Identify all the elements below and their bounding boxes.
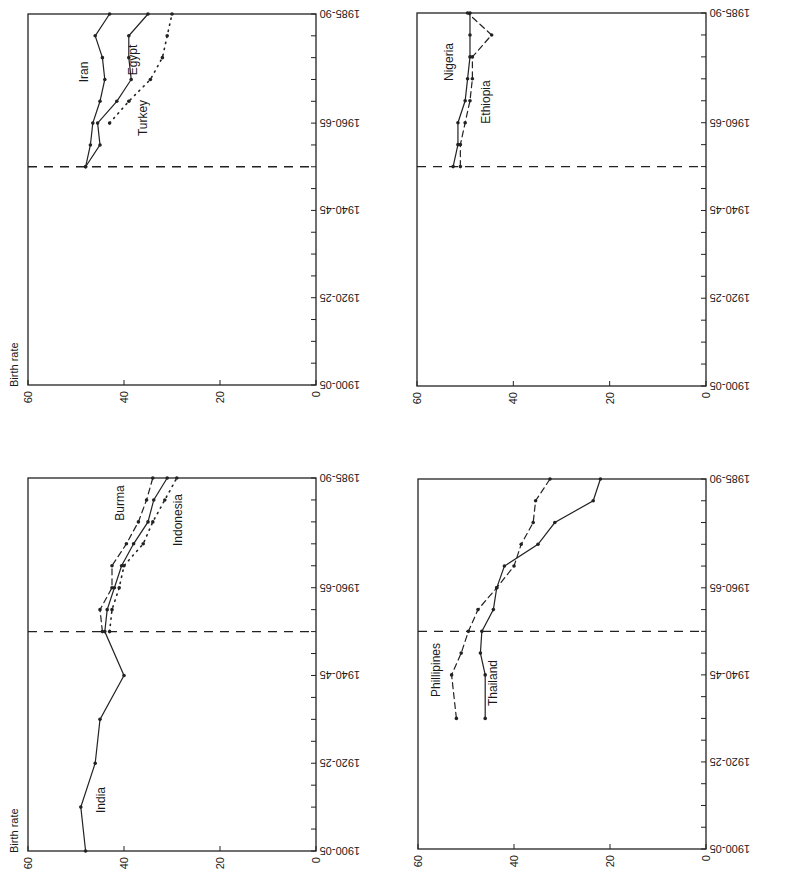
panel-iran-egypt-turkey: 1900-051920-251940-451960-651985-9060402…	[8, 8, 360, 403]
data-point	[468, 33, 472, 37]
data-point	[175, 476, 179, 480]
axis-title-birth-rate: Birth rate	[8, 342, 20, 387]
data-point	[466, 11, 470, 15]
data-point	[503, 564, 507, 568]
time-tick-label: 1960-65	[320, 117, 360, 129]
data-point	[480, 630, 484, 634]
panel-thailand-phillipines: 1900-051920-251940-451960-651985-9060402…	[412, 473, 750, 867]
data-point	[591, 499, 595, 503]
time-tick-label: 1940-45	[320, 669, 360, 681]
time-tick-label: 1940-45	[710, 669, 750, 681]
plot-frame	[418, 479, 706, 849]
data-point	[450, 673, 454, 677]
data-point	[98, 608, 102, 612]
data-point	[531, 521, 535, 525]
plot-frame	[417, 13, 706, 386]
axis-title-birth-rate: Birth rate	[8, 808, 20, 853]
data-point	[492, 608, 496, 612]
time-tick-label: 1920-25	[710, 292, 750, 304]
series-label-iran: Iran	[77, 62, 91, 83]
data-point	[476, 608, 480, 612]
data-point	[151, 520, 155, 524]
data-point	[455, 717, 459, 721]
data-point	[98, 718, 102, 722]
data-point	[165, 34, 169, 38]
time-tick-label: 1960-65	[710, 582, 750, 594]
value-tick-label: 20	[604, 392, 616, 404]
data-point	[536, 542, 540, 546]
data-point	[110, 564, 114, 568]
data-point	[471, 55, 475, 59]
time-tick-label: 1985-90	[710, 473, 750, 485]
value-tick-label: 40	[508, 855, 520, 867]
data-point	[463, 99, 467, 103]
series-label-egypt: Egypt	[126, 44, 140, 75]
data-point	[553, 521, 557, 525]
value-tick-label: 60	[412, 855, 424, 867]
data-point	[91, 121, 95, 125]
data-point	[459, 651, 463, 655]
data-point	[98, 99, 102, 103]
data-point	[98, 143, 102, 147]
value-tick-label: 40	[118, 857, 130, 869]
data-point	[108, 630, 112, 634]
value-tick-label: 20	[214, 391, 226, 403]
data-point	[79, 805, 83, 809]
value-tick-label: 20	[214, 857, 226, 869]
value-tick-label: 0	[700, 855, 712, 861]
data-point	[105, 608, 109, 612]
data-point	[495, 586, 499, 590]
data-point	[479, 651, 483, 655]
data-point	[451, 165, 455, 169]
data-point	[89, 143, 93, 147]
value-tick-label: 0	[700, 392, 712, 398]
data-point	[129, 78, 133, 82]
data-point	[146, 520, 150, 524]
panel-nigeria-ethiopia: 1900-051920-251940-451960-651985-9060402…	[411, 7, 750, 404]
time-tick-label: 1920-25	[320, 757, 360, 769]
time-tick-label: 1920-25	[320, 292, 360, 304]
time-tick-label: 1900-05	[710, 843, 750, 855]
data-point	[93, 34, 97, 38]
data-point	[471, 77, 475, 81]
data-point	[519, 542, 523, 546]
data-point	[163, 498, 167, 502]
data-point	[101, 56, 105, 60]
data-point	[108, 12, 112, 16]
data-point	[96, 121, 100, 125]
series-label-nigeria: Nigeria	[442, 43, 456, 81]
data-point	[103, 78, 107, 82]
data-point	[468, 99, 472, 103]
series-label-phillipines: Phillipines	[429, 643, 443, 697]
time-tick-label: 1900-05	[710, 380, 750, 392]
value-tick-label: 40	[507, 392, 519, 404]
data-point	[467, 630, 471, 634]
birth-rate-figure: 1900-051920-251940-451960-651985-9060402…	[0, 0, 786, 893]
data-point	[132, 542, 136, 546]
series-label-turkey: Turkey	[136, 100, 150, 136]
data-point	[101, 630, 105, 634]
series-label-burma: Burma	[113, 485, 127, 521]
data-point	[459, 165, 463, 169]
time-tick-label: 1920-25	[710, 756, 750, 768]
data-point	[141, 542, 145, 546]
data-point	[137, 520, 141, 524]
data-point	[456, 121, 460, 125]
series-label-indonesia: Indonesia	[171, 494, 185, 546]
data-point	[170, 12, 174, 16]
data-point	[125, 542, 129, 546]
data-point	[490, 33, 494, 37]
time-tick-label: 1900-05	[320, 845, 360, 857]
data-point	[110, 608, 114, 612]
panel-india-burma-indonesia: 1900-051920-251940-451960-651985-9060402…	[8, 472, 360, 869]
data-point	[151, 476, 155, 480]
data-point	[84, 165, 88, 169]
data-point	[165, 476, 169, 480]
value-tick-label: 20	[604, 855, 616, 867]
time-tick-label: 1940-45	[320, 204, 360, 216]
series-label-india: India	[94, 787, 108, 813]
data-point	[127, 34, 131, 38]
data-point	[161, 56, 165, 60]
data-point	[115, 99, 119, 103]
data-point	[152, 498, 156, 502]
